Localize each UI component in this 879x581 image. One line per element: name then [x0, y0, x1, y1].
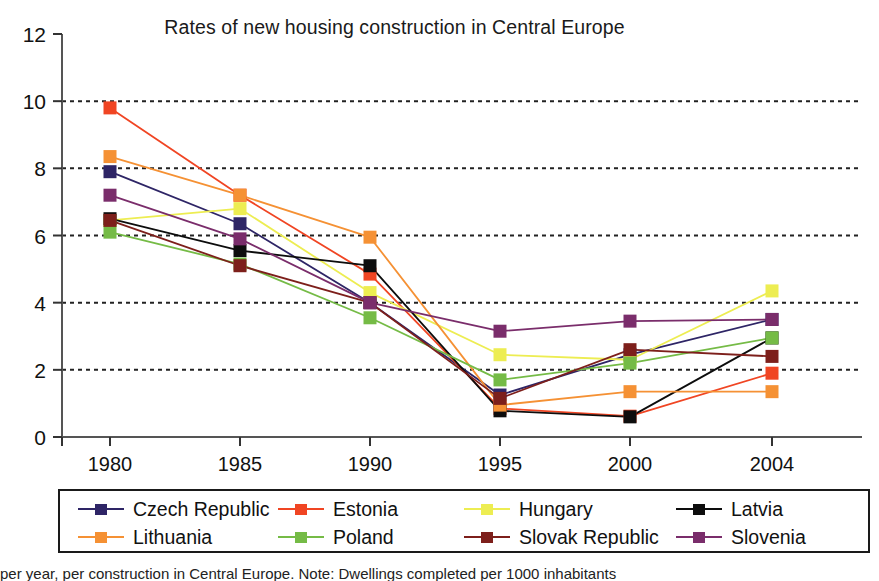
series-marker	[234, 189, 247, 202]
legend-marker-icon	[676, 530, 722, 544]
chart-plot-area: 024681012 198019851990199520002004	[0, 0, 879, 489]
legend-item-slovak-republic[interactable]: Slovak Republic	[464, 527, 676, 547]
legend-marker-icon	[278, 502, 324, 516]
y-axis-tick-label: 8	[34, 157, 46, 180]
series-marker	[494, 392, 507, 405]
series-marker	[234, 202, 247, 215]
series-line	[110, 172, 772, 395]
y-axis-tick-labels: 024681012	[23, 23, 47, 449]
series-marker	[364, 296, 377, 309]
series-line	[110, 195, 772, 331]
legend-label: Latvia	[731, 499, 783, 519]
legend-row: LithuaniaPolandSlovak RepublicSlovenia	[60, 523, 868, 551]
legend-item-poland[interactable]: Poland	[278, 527, 464, 547]
series-marker	[364, 231, 377, 244]
x-axis-tick-label: 1990	[348, 453, 393, 475]
legend-marker-icon	[464, 530, 510, 544]
series-marker	[104, 150, 117, 163]
x-axis-tick-label: 2000	[608, 453, 653, 475]
legend-item-slovenia[interactable]: Slovenia	[676, 527, 866, 547]
series-line	[110, 220, 772, 398]
series-marker	[766, 313, 779, 326]
series-line	[110, 209, 772, 360]
y-axis-tick-label: 0	[34, 426, 46, 449]
series-marker	[104, 165, 117, 178]
legend-marker-icon	[278, 530, 324, 544]
legend-item-lithuania[interactable]: Lithuania	[60, 527, 278, 547]
series-marker	[766, 350, 779, 363]
series-marker	[364, 311, 377, 324]
legend-item-latvia[interactable]: Latvia	[676, 499, 866, 519]
y-axis-tick-label: 10	[23, 90, 46, 113]
legend-label: Hungary	[519, 499, 593, 519]
series-markers	[104, 101, 779, 423]
figure-caption: per year, per construction in Central Eu…	[0, 566, 879, 581]
legend-label: Poland	[333, 527, 394, 547]
series-marker	[766, 385, 779, 398]
chart-figure: Rates of new housing construction in Cen…	[0, 0, 879, 581]
series-marker	[104, 189, 117, 202]
series-marker	[494, 325, 507, 338]
legend-label: Slovak Republic	[519, 527, 659, 547]
legend-marker-icon	[676, 502, 722, 516]
legend-label: Estonia	[333, 499, 398, 519]
series-marker	[766, 284, 779, 297]
legend-item-estonia[interactable]: Estonia	[278, 499, 464, 519]
legend-item-hungary[interactable]: Hungary	[464, 499, 676, 519]
legend-label: Czech Republic	[133, 499, 270, 519]
series-marker	[766, 331, 779, 344]
series-marker	[494, 373, 507, 386]
series-marker	[104, 226, 117, 239]
legend-label: Slovenia	[731, 527, 806, 547]
series-marker	[104, 214, 117, 227]
series-line	[110, 157, 772, 406]
y-axis-tick-label: 6	[34, 225, 46, 248]
series-marker	[624, 385, 637, 398]
x-axis-tick-label: 1985	[218, 453, 263, 475]
x-axis-tick-label: 2004	[750, 453, 795, 475]
figure-caption-text: per year, per construction in Central Eu…	[0, 566, 879, 581]
y-axis-tick-label: 2	[34, 359, 46, 382]
series-marker	[766, 367, 779, 380]
axes	[53, 34, 862, 446]
x-axis-tick-label: 1980	[88, 453, 133, 475]
y-axis-tick-label: 12	[23, 23, 46, 46]
series-marker	[364, 259, 377, 272]
chart-legend: Czech RepublicEstoniaHungaryLatviaLithua…	[58, 489, 870, 553]
x-axis-tick-label: 1995	[478, 453, 523, 475]
legend-item-czech-republic[interactable]: Czech Republic	[60, 499, 278, 519]
series-marker	[494, 348, 507, 361]
series-marker	[104, 101, 117, 114]
legend-marker-icon	[464, 502, 510, 516]
series-marker	[624, 357, 637, 370]
series-marker	[234, 259, 247, 272]
legend-row: Czech RepublicEstoniaHungaryLatvia	[60, 495, 868, 523]
legend-marker-icon	[78, 530, 124, 544]
y-axis-tick-label: 4	[34, 292, 46, 315]
legend-label: Lithuania	[133, 527, 212, 547]
x-axis-tick-labels: 198019851990199520002004	[88, 453, 795, 475]
series-marker	[234, 217, 247, 230]
series-marker	[234, 232, 247, 245]
legend-marker-icon	[78, 502, 124, 516]
series-marker	[624, 343, 637, 356]
series-marker	[624, 410, 637, 423]
series-marker	[234, 244, 247, 257]
series-marker	[624, 315, 637, 328]
